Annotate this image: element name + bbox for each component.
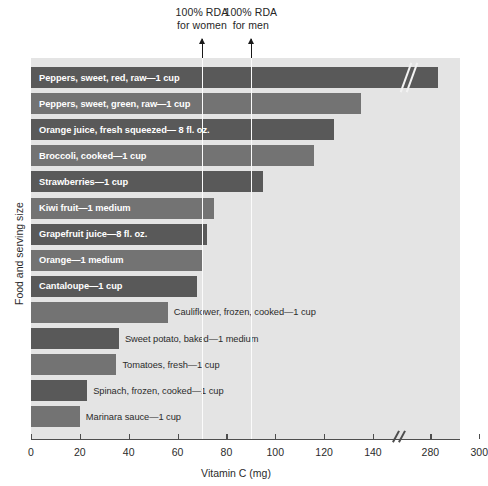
bar[interactable] [31, 302, 168, 323]
bar-label: Marinara sauce—1 cup [86, 412, 181, 422]
x-tick [324, 434, 325, 439]
bar-label: Grapefruit juice—8 fl. oz. [39, 229, 147, 239]
x-tick-label: 300 [470, 446, 488, 458]
bar-row: Broccoli, cooked—1 cup [31, 145, 460, 166]
bar-label: Strawberries—1 cup [39, 177, 128, 187]
x-tick-label: 280 [422, 446, 440, 458]
bar-row: Marinara sauce—1 cup [31, 406, 460, 427]
x-tick [226, 434, 227, 439]
bar-row: Strawberries—1 cup [31, 171, 460, 192]
bar-label: Sweet potato, baked—1 medium [125, 334, 258, 344]
bar-row: Cantaloupe—1 cup [31, 276, 460, 297]
bar-row: Spinach, frozen, cooked—1 cup [31, 380, 460, 401]
bar-label: Peppers, sweet, red, raw—1 cup [39, 73, 180, 83]
x-tick-label: 40 [123, 446, 135, 458]
x-tick-label: 0 [28, 446, 34, 458]
x-tick [479, 434, 480, 439]
bar-label: Kiwi fruit—1 medium [39, 203, 131, 213]
bar[interactable] [31, 380, 87, 401]
rda-men-line [251, 58, 252, 439]
x-tick-label: 140 [364, 446, 382, 458]
x-tick [31, 434, 32, 439]
bar-label: Cauliflower, frozen, cooked—1 cup [174, 307, 316, 317]
rda-women-line [202, 58, 203, 439]
bar-label: Tomatoes, fresh—1 cup [122, 360, 219, 370]
plot-area: Peppers, sweet, red, raw—1 cupPeppers, s… [31, 58, 460, 439]
bar-row: Kiwi fruit—1 medium [31, 198, 460, 219]
bar-row: Peppers, sweet, green, raw—1 cup [31, 93, 460, 114]
x-axis-break-icon [392, 431, 410, 443]
bar-label: Orange—1 medium [39, 255, 124, 265]
arrow-rda-men [251, 39, 252, 58]
bar[interactable] [31, 406, 80, 427]
bar[interactable] [31, 354, 116, 375]
x-tick [129, 434, 130, 439]
annotation-rda-men: 100% RDA for men [203, 6, 299, 31]
bar[interactable] [31, 328, 119, 349]
x-tick-label: 100 [266, 446, 284, 458]
x-tick [373, 434, 374, 439]
x-tick [275, 434, 276, 439]
x-tick-label: 60 [172, 446, 184, 458]
bar-row: Cauliflower, frozen, cooked—1 cup [31, 302, 460, 323]
bar-label: Orange juice, fresh squeezed— 8 fl. oz. [39, 125, 210, 135]
x-tick-label: 120 [315, 446, 333, 458]
bar-row: Orange juice, fresh squeezed— 8 fl. oz. [31, 119, 460, 140]
bar-label: Spinach, frozen, cooked—1 cup [93, 386, 223, 396]
x-axis-title: Vitamin C (mg) [0, 467, 472, 479]
x-tick-label: 80 [221, 446, 233, 458]
bar-label: Peppers, sweet, green, raw—1 cup [39, 99, 190, 109]
arrow-rda-women [202, 39, 203, 58]
y-axis-title: Food and serving size [13, 202, 25, 305]
bar-label: Broccoli, cooked—1 cup [39, 151, 146, 161]
bar-row: Orange—1 medium [31, 250, 460, 271]
x-tick [178, 434, 179, 439]
bar-row: Grapefruit juice—8 fl. oz. [31, 224, 460, 245]
bar-row: Tomatoes, fresh—1 cup [31, 354, 460, 375]
x-tick [430, 434, 431, 439]
bar-row: Peppers, sweet, red, raw—1 cup [31, 67, 460, 88]
bar-label: Cantaloupe—1 cup [39, 281, 122, 291]
x-tick-label: 20 [74, 446, 86, 458]
x-tick [80, 434, 81, 439]
bar-break-icon [402, 65, 418, 90]
bar-row: Sweet potato, baked—1 medium [31, 328, 460, 349]
